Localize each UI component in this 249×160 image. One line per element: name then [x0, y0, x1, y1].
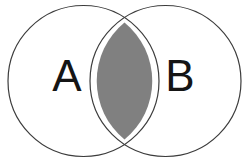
venn-diagram-figure: A B	[0, 0, 249, 160]
set-a-label: A	[52, 51, 82, 100]
venn-diagram-canvas: A B	[0, 0, 249, 160]
set-b-label: B	[165, 51, 194, 100]
